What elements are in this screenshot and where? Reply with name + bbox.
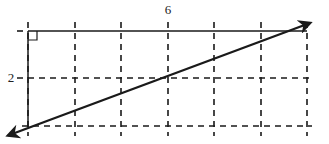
diagram-canvas: 6 2 <box>0 0 329 144</box>
arrow-line <box>8 23 310 136</box>
label-top: 6 <box>165 2 172 17</box>
right-angle-marker <box>28 31 37 40</box>
label-left: 2 <box>8 70 15 85</box>
horizontal-grid-lines <box>17 31 312 126</box>
